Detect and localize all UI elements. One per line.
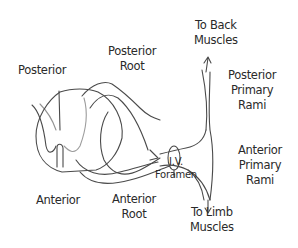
label-apr-line1: Anterior <box>238 143 282 158</box>
label-anterior-text: Anterior <box>36 193 80 208</box>
spinal-cord-outline <box>36 89 122 172</box>
label-anterior-root-line2: Root <box>112 207 156 222</box>
dorsal-root-ganglion <box>101 112 160 174</box>
spinal-nerve-upper <box>160 130 206 154</box>
label-anterior-root-line1: Anterior <box>112 192 156 207</box>
label-anterior-primary-rami: Anterior Primary Rami <box>238 143 282 188</box>
label-anterior: Anterior <box>36 193 80 208</box>
label-to-limb-line2: Muscles <box>190 220 234 235</box>
label-to-back-line1: To Back <box>194 18 238 33</box>
label-iv-line1: I.V. <box>155 155 197 168</box>
label-ppr-line3: Rami <box>228 98 276 113</box>
label-apr-line2: Primary <box>238 158 282 173</box>
label-iv-foramen: I.V. Foramen <box>155 155 197 181</box>
label-posterior-root-line2: Root <box>108 59 156 74</box>
posterior-root-lower <box>90 95 148 150</box>
label-iv-line2: Foramen <box>155 168 197 181</box>
label-to-back-muscles: To Back Muscles <box>194 18 238 48</box>
posterior-ramus-right <box>209 72 213 200</box>
label-posterior-primary-rami: Posterior Primary Rami <box>228 68 276 113</box>
spinal-nerve-diagram: Posterior Posterior Root To Back Muscles… <box>0 0 298 248</box>
label-posterior-text: Posterior <box>18 63 66 78</box>
label-to-back-line2: Muscles <box>194 33 238 48</box>
label-posterior: Posterior <box>18 63 66 78</box>
label-ppr-line1: Posterior <box>228 68 276 83</box>
label-ppr-line2: Primary <box>228 83 276 98</box>
label-to-limb-line1: To Limb <box>190 205 234 220</box>
label-posterior-root-line1: Posterior <box>108 44 156 59</box>
gray-matter-left <box>32 105 56 152</box>
label-anterior-root: Anterior Root <box>112 192 156 222</box>
gray-matter-right <box>64 98 86 151</box>
anterior-median-fissure <box>57 144 63 167</box>
label-to-limb-muscles: To Limb Muscles <box>190 205 234 235</box>
posterior-median-fissure <box>59 91 60 130</box>
posterior-ramus-left <box>202 70 207 130</box>
label-posterior-root: Posterior Root <box>108 44 156 74</box>
up-arrow-icon <box>204 57 211 72</box>
label-apr-line3: Rami <box>238 173 282 188</box>
